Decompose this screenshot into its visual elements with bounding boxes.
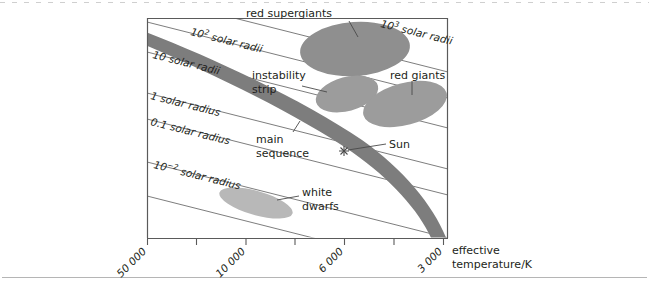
label-sun: Sun <box>389 138 410 151</box>
sun-marker <box>339 146 349 156</box>
label-white-dwarfs-line1: white <box>302 186 332 199</box>
label-instability-strip-line1: instability <box>252 69 306 82</box>
hr-diagram-figure: 102 solar radii 103 solar radii 10 solar… <box>0 0 649 292</box>
x-axis-title-line2: temperature/K <box>452 258 533 271</box>
label-main-sequence-line1: main <box>256 133 284 146</box>
label-red-giants: red giants <box>390 69 446 82</box>
hr-diagram-canvas: 102 solar radii 103 solar radii 10 solar… <box>0 0 649 292</box>
label-red-supergiants: red supergiants <box>246 7 332 20</box>
x-axis-title-line1: effective <box>452 244 500 257</box>
label-main-sequence-line2: sequence <box>256 147 309 160</box>
label-white-dwarfs-line2: dwarfs <box>302 200 339 213</box>
label-instability-strip-line2: strip <box>252 83 277 96</box>
